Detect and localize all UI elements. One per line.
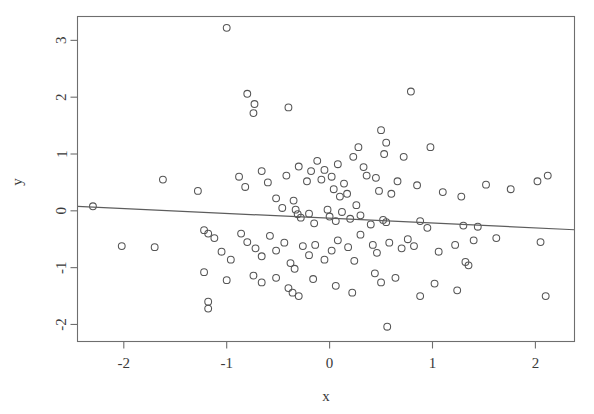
- x-tick-label: 0: [326, 355, 334, 371]
- data-point: [304, 178, 311, 185]
- data-point: [223, 24, 230, 31]
- data-point: [242, 184, 249, 191]
- data-point: [493, 235, 500, 242]
- data-point: [374, 249, 381, 256]
- data-point: [341, 180, 348, 187]
- data-point: [299, 243, 306, 250]
- x-tick-label: -2: [118, 355, 131, 371]
- data-point: [378, 279, 385, 286]
- data-point: [321, 167, 328, 174]
- data-point: [289, 289, 296, 296]
- data-point: [250, 110, 257, 117]
- data-point: [250, 272, 257, 279]
- data-point: [417, 218, 424, 225]
- data-point: [339, 209, 346, 216]
- data-point: [507, 186, 514, 193]
- scatter-plot-figure: -2-1012 -2-10123 x y: [0, 0, 594, 414]
- data-point: [227, 256, 234, 263]
- data-point: [332, 282, 339, 289]
- data-point: [194, 188, 201, 195]
- data-point: [414, 182, 421, 189]
- y-tick-label: 3: [54, 37, 70, 45]
- data-point: [306, 210, 313, 217]
- data-point: [376, 188, 383, 195]
- data-point: [151, 244, 158, 251]
- data-point: [330, 186, 337, 193]
- data-point: [542, 293, 549, 300]
- data-point: [470, 237, 477, 244]
- data-point: [279, 205, 286, 212]
- data-point: [273, 274, 280, 281]
- data-point: [321, 256, 328, 263]
- data-point: [306, 252, 313, 259]
- data-point: [324, 206, 331, 213]
- data-point: [427, 144, 434, 151]
- data-point: [311, 220, 318, 227]
- data-point: [90, 203, 97, 210]
- data-point: [454, 287, 461, 294]
- y-axis-ticks: -2-10123: [54, 37, 78, 331]
- x-tick-label: 2: [532, 355, 540, 371]
- data-point: [360, 164, 367, 171]
- data-point: [534, 178, 541, 185]
- data-point: [383, 139, 390, 146]
- data-point: [283, 172, 290, 179]
- data-point: [318, 176, 325, 183]
- data-point: [273, 247, 280, 254]
- data-point: [369, 242, 376, 249]
- data-point: [285, 104, 292, 111]
- y-axis-label: y: [9, 178, 25, 186]
- plot-frame: [78, 17, 575, 342]
- data-point: [388, 190, 395, 197]
- data-point: [328, 247, 335, 254]
- data-point: [314, 157, 321, 164]
- data-point: [264, 179, 271, 186]
- data-point: [458, 193, 465, 200]
- data-points-layer: [90, 24, 552, 330]
- data-point: [345, 244, 352, 251]
- data-point: [394, 178, 401, 185]
- data-point: [373, 174, 380, 181]
- y-tick-label: -2: [54, 318, 70, 331]
- data-point: [160, 176, 167, 183]
- data-point: [452, 242, 459, 249]
- data-point: [281, 239, 288, 246]
- data-point: [285, 285, 292, 292]
- data-point: [431, 280, 438, 287]
- data-point: [201, 269, 208, 276]
- data-point: [371, 270, 378, 277]
- data-point: [334, 161, 341, 168]
- data-point: [386, 239, 393, 246]
- data-point: [367, 221, 374, 228]
- x-tick-label: -1: [220, 355, 233, 371]
- data-point: [351, 257, 358, 264]
- plot-canvas: -2-1012 -2-10123 x y: [0, 0, 594, 414]
- data-point: [290, 197, 297, 204]
- x-tick-label: 1: [429, 355, 437, 371]
- data-point: [267, 232, 274, 239]
- data-point: [258, 279, 265, 286]
- data-point: [353, 202, 360, 209]
- data-point: [439, 189, 446, 196]
- data-point: [258, 168, 265, 175]
- data-point: [312, 242, 319, 249]
- data-point: [244, 90, 251, 97]
- data-point: [205, 298, 212, 305]
- data-point: [310, 276, 317, 283]
- data-point: [244, 239, 251, 246]
- data-point: [308, 168, 315, 175]
- data-point: [211, 235, 218, 242]
- x-axis-ticks: -2-1012: [118, 342, 540, 371]
- data-point: [349, 289, 356, 296]
- data-point: [357, 231, 364, 238]
- data-point: [381, 151, 388, 158]
- y-tick-label: 2: [54, 93, 70, 101]
- x-axis-label: x: [322, 388, 330, 404]
- data-point: [350, 153, 357, 160]
- data-point: [400, 153, 407, 160]
- data-point: [291, 265, 298, 272]
- data-point: [398, 245, 405, 252]
- data-point: [238, 230, 245, 237]
- data-point: [384, 323, 391, 330]
- data-point: [474, 223, 481, 230]
